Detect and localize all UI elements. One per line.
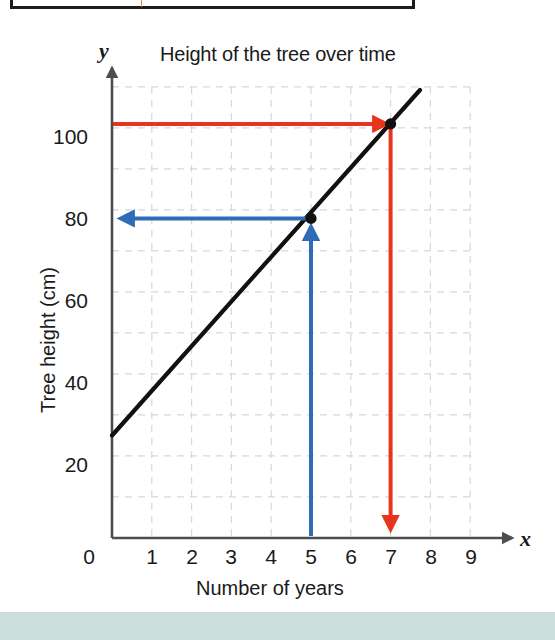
y-axis-label: Tree height (cm) [38,230,58,450]
y-tick-label-20: 20 [28,454,88,475]
x-axis-variable: x [520,528,531,550]
x-tick-label-8: 8 [416,546,446,567]
x-tick-label-5: 5 [296,546,326,567]
y-tick-label-40: 40 [28,372,88,393]
page-footer-band [0,612,555,640]
x-tick-label-2: 2 [177,546,207,567]
trend-line [112,90,420,436]
x-tick-label-3: 3 [216,546,246,567]
y-axis-variable: y [99,40,109,62]
x-tick-label-0: 0 [74,546,104,567]
chart-figure: Height of the tree over time Tree height… [0,0,555,612]
data-point-red [385,118,396,129]
x-tick-label-4: 4 [256,546,286,567]
x-tick-label-1: 1 [137,546,167,567]
gridlines-horizontal [112,87,470,497]
chart-title: Height of the tree over time [160,44,396,64]
x-tick-label-7: 7 [376,546,406,567]
y-tick-label-80: 80 [28,208,88,229]
x-axis-label: Number of years [196,578,344,598]
y-tick-label-100: 100 [28,126,88,147]
x-tick-label-6: 6 [336,546,366,567]
data-point-blue [305,213,316,224]
y-tick-label-60: 60 [28,290,88,311]
x-tick-label-9: 9 [456,546,486,567]
